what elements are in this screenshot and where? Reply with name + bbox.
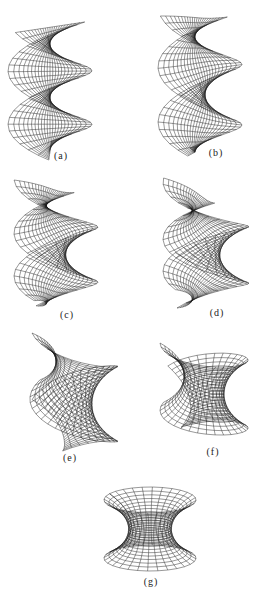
panel-label-e: (e) xyxy=(63,452,77,463)
panel-label-a: (a) xyxy=(54,150,68,161)
panel-label-f: (f) xyxy=(207,446,220,457)
panel-g xyxy=(104,487,196,571)
panel-label-g: (g) xyxy=(144,576,159,587)
panel-d xyxy=(163,178,249,308)
panel-label-d: (d) xyxy=(210,307,225,318)
wireframe-surface-d xyxy=(163,178,249,308)
panel-label-c: (c) xyxy=(60,309,74,320)
wireframe-surface-f xyxy=(160,343,248,435)
panel-b xyxy=(158,16,242,156)
panel-c xyxy=(14,180,98,306)
wireframe-surface-e xyxy=(30,333,118,451)
panel-e xyxy=(30,333,118,451)
panel-a xyxy=(8,22,92,160)
panel-f xyxy=(160,343,248,435)
wireframe-surface-c xyxy=(14,180,98,306)
panel-label-b: (b) xyxy=(209,147,224,158)
wireframe-surface-a xyxy=(8,22,92,160)
wireframe-surface-g xyxy=(104,487,196,571)
wireframe-surface-b xyxy=(158,16,242,156)
